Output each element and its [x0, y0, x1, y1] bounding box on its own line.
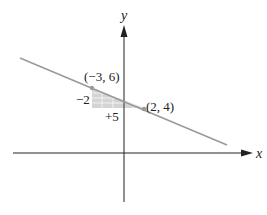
x-axis-arrow-icon	[241, 150, 253, 157]
y-axis	[121, 25, 128, 202]
coordinate-plane: y x (−3, 6) (2, 4) −2 +5	[0, 0, 267, 215]
point-a-marker	[90, 86, 94, 90]
point-a-label: (−3, 6)	[84, 69, 120, 84]
y-axis-label: y	[119, 8, 128, 23]
x-axis-label: x	[255, 146, 263, 161]
x-axis	[13, 150, 253, 157]
y-axis-arrow-icon	[121, 25, 128, 37]
run-label: +5	[105, 109, 119, 124]
rise-label: −2	[76, 92, 90, 107]
point-b-label: (2, 4)	[146, 99, 174, 114]
